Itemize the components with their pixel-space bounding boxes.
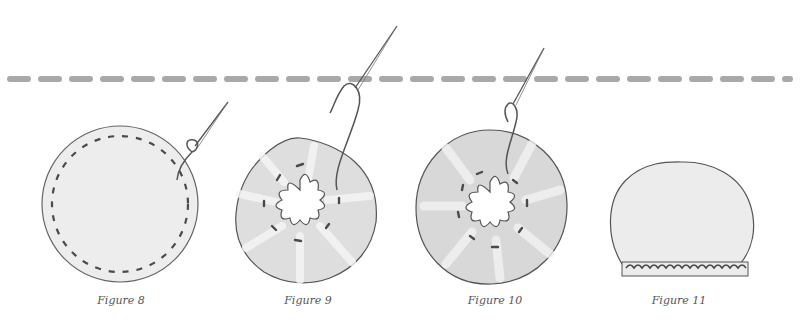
figure-9-caption: Figure 9 — [284, 294, 332, 307]
figure-11-caption: Figure 11 — [652, 294, 707, 307]
figure-10-caption: Figure 10 — [468, 294, 523, 307]
figure-8-caption: Figure 8 — [97, 294, 145, 307]
figure-9-illustration — [236, 26, 397, 283]
figure-10-illustration — [416, 48, 567, 284]
sewing-diagram: Figure 8 Figure 9 Figure 10 Figure 11 — [0, 0, 802, 324]
figure-8-illustration — [42, 102, 228, 282]
figure-11-illustration — [610, 162, 753, 276]
